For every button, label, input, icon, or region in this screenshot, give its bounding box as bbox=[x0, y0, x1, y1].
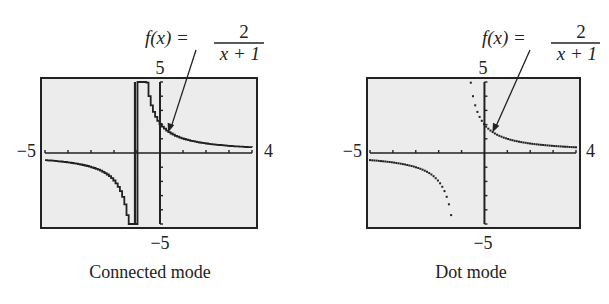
plot-dot bbox=[540, 144, 542, 146]
plot-dot bbox=[568, 146, 570, 148]
plot-dot bbox=[411, 165, 413, 167]
plot-dot bbox=[369, 159, 371, 161]
plot-dot bbox=[547, 144, 549, 146]
plot-dot bbox=[518, 141, 520, 143]
plot-dot bbox=[522, 142, 524, 144]
plot-dot bbox=[542, 144, 544, 146]
plot-dot bbox=[516, 140, 518, 142]
ymin-label: −5 bbox=[150, 233, 169, 253]
plot-dot bbox=[505, 137, 507, 139]
plot-dot bbox=[553, 145, 555, 147]
plot-dot bbox=[446, 196, 448, 198]
plot-dot bbox=[533, 143, 535, 145]
plot-dot bbox=[483, 123, 485, 125]
plot-dot bbox=[424, 170, 426, 172]
plot-dot bbox=[501, 136, 503, 138]
plot-dot bbox=[448, 203, 450, 205]
plot-dot bbox=[536, 143, 538, 145]
plot-dot bbox=[428, 172, 430, 174]
plot-dot bbox=[549, 145, 551, 147]
dot-mode-panel: f(x) = 2 x + 1 5 −5 4 −5 Dot mode bbox=[343, 21, 600, 282]
plot-dot bbox=[376, 160, 378, 162]
plot-dot bbox=[474, 104, 476, 106]
plot-dot bbox=[503, 137, 505, 139]
figure: f(x) = 2 x + 1 5 −5 4 −5 Connected mode … bbox=[0, 0, 609, 304]
plot-dot bbox=[382, 160, 384, 162]
caption: Dot mode bbox=[435, 262, 507, 282]
plot-dot bbox=[538, 144, 540, 146]
plot-dot bbox=[558, 145, 560, 147]
plot-dot bbox=[494, 133, 496, 135]
plot-dot bbox=[562, 146, 564, 148]
plot-dot bbox=[566, 146, 568, 148]
plot-dot bbox=[520, 141, 522, 143]
plot-dot bbox=[384, 161, 386, 163]
plot-dot bbox=[496, 134, 498, 136]
plot-dot bbox=[439, 182, 441, 184]
plot-dot bbox=[391, 161, 393, 163]
plot-dot bbox=[487, 128, 489, 130]
plot-dot bbox=[406, 164, 408, 166]
plot-dot bbox=[441, 186, 443, 188]
plot-dot bbox=[564, 146, 566, 148]
ymax-label: 5 bbox=[479, 58, 488, 78]
plot-dot bbox=[490, 130, 492, 132]
plot-dot bbox=[551, 145, 553, 147]
plot-dot bbox=[408, 165, 410, 167]
plot-dot bbox=[472, 95, 474, 97]
plot-dot bbox=[398, 162, 400, 164]
plot-dot bbox=[435, 177, 437, 179]
plot-dot bbox=[509, 139, 511, 141]
caption: Connected mode bbox=[89, 262, 210, 282]
plot-dot bbox=[498, 135, 500, 137]
plot-dot bbox=[389, 161, 391, 163]
plot-dot bbox=[413, 166, 415, 168]
equation-lhs: f(x) = bbox=[482, 27, 526, 49]
plot-dot bbox=[393, 162, 395, 164]
plot-dot bbox=[575, 146, 577, 148]
equation-lhs: f(x) = bbox=[145, 27, 189, 49]
plot-dot bbox=[481, 120, 483, 122]
plot-dot bbox=[555, 145, 557, 147]
plot-dot bbox=[422, 169, 424, 171]
plot-dot bbox=[380, 160, 382, 162]
plot-dot bbox=[430, 174, 432, 176]
plot-dot bbox=[373, 160, 375, 162]
plot-dot bbox=[404, 164, 406, 166]
equation-numerator: 2 bbox=[239, 21, 249, 42]
plot-dot bbox=[531, 143, 533, 145]
plot-dot bbox=[511, 139, 513, 141]
plot-dot bbox=[433, 175, 435, 177]
xmin-label: −5 bbox=[343, 141, 362, 161]
plot-dot bbox=[527, 142, 529, 144]
plot-dot bbox=[419, 168, 421, 170]
xmax-label: 4 bbox=[264, 141, 273, 161]
plot-dot bbox=[387, 161, 389, 163]
plot-dot bbox=[378, 160, 380, 162]
ymax-label: 5 bbox=[156, 58, 165, 78]
plot-dot bbox=[529, 143, 531, 145]
plot-dot bbox=[402, 163, 404, 165]
plot-dot bbox=[485, 126, 487, 128]
equation-denominator: x + 1 bbox=[219, 43, 260, 64]
plot-dot bbox=[444, 190, 446, 192]
plot-dot bbox=[415, 166, 417, 168]
plot-dot bbox=[507, 138, 509, 140]
plot-dot bbox=[560, 145, 562, 147]
plot-dot bbox=[514, 140, 516, 142]
equation-denominator: x + 1 bbox=[556, 43, 597, 64]
plot-dot bbox=[450, 214, 452, 216]
plot-dot bbox=[525, 142, 527, 144]
plot-dot bbox=[470, 82, 472, 84]
plot-dot bbox=[371, 159, 373, 161]
plot-dot bbox=[426, 171, 428, 173]
ymin-label: −5 bbox=[473, 233, 492, 253]
plot-dot bbox=[417, 167, 419, 169]
plot-dot bbox=[571, 146, 573, 148]
connected-mode-panel: f(x) = 2 x + 1 5 −5 4 −5 Connected mode bbox=[17, 21, 273, 282]
plot-dot bbox=[400, 163, 402, 165]
xmin-label: −5 bbox=[17, 141, 36, 161]
plot-dot bbox=[476, 111, 478, 113]
plot-dot bbox=[395, 162, 397, 164]
xmax-label: 4 bbox=[586, 141, 595, 161]
